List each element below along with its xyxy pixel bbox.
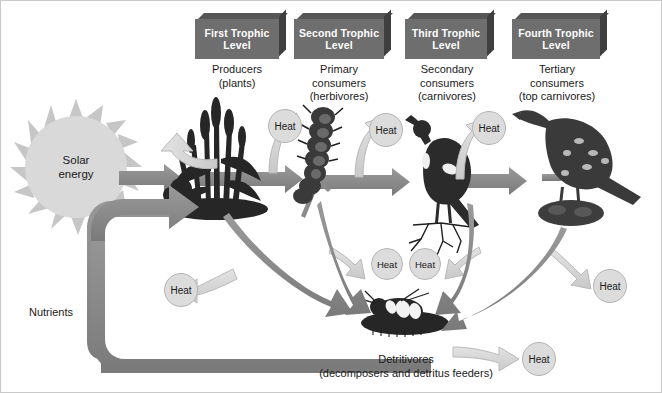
trophic-block-fourth: Fourth Trophic Level: [512, 19, 600, 59]
solar-energy-label: Solar energy: [31, 153, 121, 181]
heat-bubble-producers: Heat: [268, 109, 302, 143]
caption-primary-consumers: Primary consumers (herbivores): [289, 63, 389, 104]
energy-arrow-producers-to-detritivores: [223, 213, 353, 317]
trophic-block-first: First Trophic Level: [195, 19, 279, 59]
caption-line3: (herbivores): [289, 90, 389, 104]
block-side-face: [600, 10, 607, 57]
trophic-block-second-label: Second Trophic Level: [294, 19, 384, 59]
caption-line2: consumers: [397, 77, 497, 91]
block-line1: First Trophic: [205, 27, 270, 39]
detritivores-label: Detritivores (decomposers and detritus f…: [291, 353, 521, 380]
block-line2: Level: [542, 39, 569, 51]
heat-bubble-carnivores: Heat: [472, 111, 506, 145]
block-line1: Second Trophic: [299, 27, 379, 39]
caption-line2: consumers: [500, 77, 614, 91]
nutrients-label: Nutrients: [29, 306, 73, 320]
block-side-face: [279, 10, 286, 57]
block-line2: Level: [432, 39, 459, 51]
topcarnivore-hawk-image: [512, 110, 641, 226]
energy-arrow-herbivores-to-carnivores: [319, 168, 410, 196]
diagram-canvas: [1, 1, 662, 393]
heat-bubble-center-left: Heat: [371, 248, 403, 280]
solar-line2: energy: [31, 167, 121, 181]
caption-line2: (plants): [183, 77, 291, 91]
heat-bubble-right-lower: Heat: [593, 269, 627, 303]
heat-bubble-herbivores: Heat: [369, 113, 403, 147]
caption-line1: Tertiary: [500, 63, 614, 77]
caption-secondary-consumers: Secondary consumers (carnivores): [397, 63, 497, 104]
trophic-block-fourth-label: Fourth Trophic Level: [512, 19, 600, 59]
heat-arrow-center-right: [445, 247, 481, 279]
caption-line2: consumers: [289, 77, 389, 91]
caption-tertiary-consumers: Tertiary consumers (top carnivores): [500, 63, 614, 104]
trophic-block-first-label: First Trophic Level: [195, 19, 279, 59]
block-side-face: [487, 10, 494, 57]
caption-producers: Producers (plants): [183, 63, 291, 90]
heat-arrow-right-lower: [549, 249, 591, 289]
energy-flow-diagram: First Trophic Level Second Trophic Level…: [0, 0, 662, 393]
caption-line1: Secondary: [397, 63, 497, 77]
trophic-block-third-label: Third Trophic Level: [405, 19, 487, 59]
caption-line3: (top carnivores): [500, 90, 614, 104]
caption-line1: Primary: [289, 63, 389, 77]
block-line1: Fourth Trophic: [518, 27, 593, 39]
block-line1: Third Trophic: [412, 27, 480, 39]
trophic-block-third: Third Trophic Level: [405, 19, 487, 59]
hawk-perch-rock: [538, 200, 604, 226]
detritivores-line2: (decomposers and detritus feeders): [291, 367, 521, 381]
heat-bubble-detritivores: Heat: [522, 342, 556, 376]
block-line2: Level: [325, 39, 352, 51]
block-line2: Level: [223, 39, 250, 51]
heat-bubble-center-right: Heat: [409, 248, 441, 280]
caption-line1: Producers: [183, 63, 291, 77]
caption-line3: (carnivores): [397, 90, 497, 104]
block-side-face: [384, 10, 391, 57]
detritivores-line1: Detritivores: [291, 353, 521, 367]
trophic-block-second: Second Trophic Level: [294, 19, 384, 59]
heat-bubble-nutrients: Heat: [164, 273, 198, 307]
heat-arrow-center-left: [329, 247, 365, 279]
solar-line1: Solar: [31, 153, 121, 167]
